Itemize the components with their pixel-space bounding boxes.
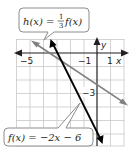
h-callout-num: 1 xyxy=(59,13,63,21)
f-callout: f(x) = −2x − 6 xyxy=(4,103,93,146)
h-callout: h(x) = 1 3 f(x) xyxy=(19,8,89,40)
y-axis-label: y xyxy=(100,40,107,50)
h-callout-right: f(x) xyxy=(64,16,82,27)
h-callout-den: 3 xyxy=(59,22,63,30)
tick-label-neg5: −5 xyxy=(20,56,33,66)
tick-label-neg3: −3 xyxy=(82,88,95,98)
tick-label-neg1: −1 xyxy=(78,56,91,66)
f-callout-text: f(x) = −2x − 6 xyxy=(7,132,82,143)
tick-label-1: 1 xyxy=(107,56,113,66)
h-callout-left: h(x) = xyxy=(23,16,54,27)
graph: −5 −1 1 x y −3 h(x) = 1 3 f(x) f(x) = −2… xyxy=(0,0,134,149)
x-axis-label: x xyxy=(115,56,122,66)
